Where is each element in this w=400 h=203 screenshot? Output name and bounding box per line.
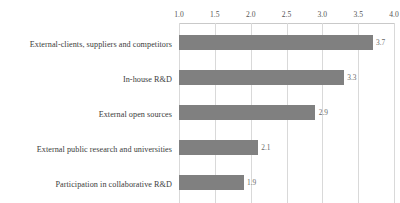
bar-value-label: 2.1 xyxy=(261,143,270,152)
x-tick-label: 3.5 xyxy=(353,10,363,19)
bar[interactable] xyxy=(179,105,315,120)
bar-value-label: 3.3 xyxy=(347,73,356,82)
x-tick-label: 2.0 xyxy=(246,10,256,19)
x-tick-label: 3.0 xyxy=(318,10,328,19)
category-label: External public research and universitie… xyxy=(37,145,172,155)
x-tick-label: 1.0 xyxy=(174,10,184,19)
bar-value-label: 2.9 xyxy=(319,108,328,117)
bar-value-label: 1.9 xyxy=(247,178,256,187)
gridline xyxy=(358,23,359,203)
x-tick-label: 1.5 xyxy=(210,10,220,19)
bar[interactable] xyxy=(179,35,373,50)
x-tick-label: 4.0 xyxy=(389,10,399,19)
category-label: Participation in collaborative R&D xyxy=(55,180,172,190)
x-tick-label: 2.5 xyxy=(282,10,292,19)
bar[interactable] xyxy=(179,175,244,190)
bar[interactable] xyxy=(179,140,258,155)
category-label: External open sources xyxy=(99,110,172,120)
plot-area: 3.7 3.3 2.9 2.1 1.9 xyxy=(179,23,394,203)
bar-value-label: 3.7 xyxy=(376,38,385,47)
gridline xyxy=(394,23,395,203)
category-label: External-clients, suppliers and competit… xyxy=(30,40,172,50)
bar-chart: External-clients, suppliers and competit… xyxy=(0,0,400,203)
category-label-column: External-clients, suppliers and competit… xyxy=(0,0,176,203)
bar[interactable] xyxy=(179,70,344,85)
category-label: In-house R&D xyxy=(123,75,172,85)
